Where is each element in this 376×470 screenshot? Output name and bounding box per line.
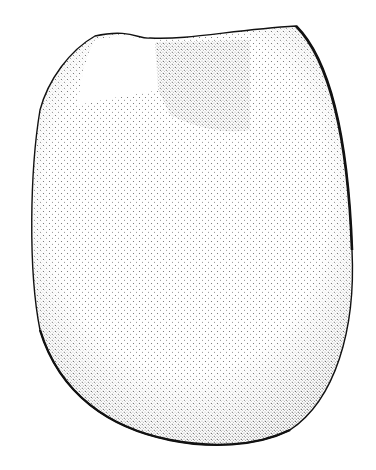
artifact-stipple-drawing (0, 0, 376, 470)
